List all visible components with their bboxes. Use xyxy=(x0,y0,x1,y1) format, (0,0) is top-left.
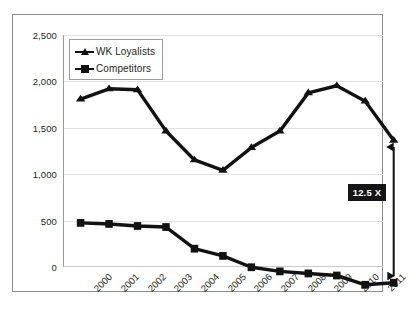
y-axis-tick-label: 500 xyxy=(41,215,57,226)
ratio-callout-badge: 12.5 X xyxy=(348,184,387,201)
x-axis-tick-label: 2001 xyxy=(118,271,141,294)
gridline xyxy=(64,221,383,222)
data-point-triangle xyxy=(389,136,398,143)
x-axis-tick-label: 2006 xyxy=(252,271,275,294)
x-axis-tick-label: 2011 xyxy=(385,271,408,294)
y-axis-tick-label: 0 xyxy=(52,262,57,273)
x-axis-tick-label: 2000 xyxy=(92,271,115,294)
x-axis-tick-label: 2010 xyxy=(358,271,381,294)
legend-item-competitors[interactable]: Competitors xyxy=(75,61,155,75)
gridline xyxy=(64,81,383,82)
legend-label: WK Loyalists xyxy=(96,46,155,57)
legend-item-wk-loyalists[interactable]: WK Loyalists xyxy=(75,44,155,58)
square-marker-icon xyxy=(75,63,94,74)
x-axis-tick-label: 2007 xyxy=(278,271,301,294)
x-axis: 2000200120022003200420052006200720082009… xyxy=(63,267,383,309)
gridline xyxy=(64,174,383,175)
x-axis-tick-label: 2005 xyxy=(225,271,248,294)
y-axis-tick-label: 1,000 xyxy=(33,169,57,180)
x-axis-tick-label: 2008 xyxy=(305,271,328,294)
y-axis-tick-label: 1,500 xyxy=(33,122,57,133)
chart-frame: 05001,0001,5002,0002,500 200020012002200… xyxy=(12,14,383,292)
x-axis-tick-label: 2004 xyxy=(198,271,221,294)
triangle-marker-icon xyxy=(75,46,94,57)
x-axis-tick-label: 2002 xyxy=(145,271,168,294)
y-axis: 05001,0001,5002,0002,500 xyxy=(13,15,63,267)
x-axis-tick-label: 2009 xyxy=(332,271,355,294)
chart-legend: WK Loyalists Competitors xyxy=(69,39,163,80)
x-axis-tick-label: 2003 xyxy=(172,271,195,294)
y-axis-tick-label: 2,000 xyxy=(33,76,57,87)
gridline xyxy=(64,35,383,36)
legend-label: Competitors xyxy=(96,63,151,74)
y-axis-tick-label: 2,500 xyxy=(33,30,57,41)
gridline xyxy=(64,128,383,129)
